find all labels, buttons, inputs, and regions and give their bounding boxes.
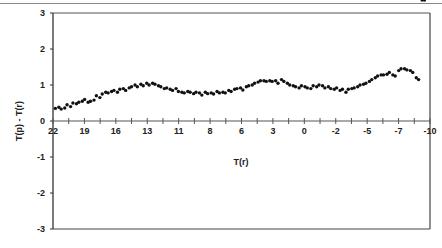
data-point [358, 83, 361, 86]
data-point [112, 89, 115, 92]
y-ticks: 3210-1-2-3 [37, 8, 53, 234]
data-point [95, 94, 98, 97]
x-tick-label: 8 [208, 126, 213, 136]
data-point [174, 87, 177, 90]
data-point [65, 103, 68, 106]
data-point [323, 86, 326, 89]
data-point [206, 92, 209, 95]
data-point [274, 79, 277, 82]
data-point [89, 100, 92, 103]
data-points [54, 0, 427, 111]
data-point [194, 91, 197, 94]
data-point [153, 83, 156, 86]
data-point [116, 91, 119, 94]
data-point [259, 79, 262, 82]
data-point [69, 105, 72, 108]
x-tick-label: -2 [332, 126, 340, 136]
data-point [393, 74, 396, 77]
data-point [171, 89, 174, 92]
data-point [98, 96, 101, 99]
data-point [405, 68, 408, 71]
scatter-chart: 3210-1-2-3 22191613118630-2-5-7-10 T(r) … [0, 0, 442, 248]
data-point [241, 88, 244, 91]
data-point [294, 85, 297, 88]
x-tick-label: 3 [270, 126, 275, 136]
data-point [352, 86, 355, 89]
x-tick-label: 0 [302, 126, 307, 136]
data-point [399, 67, 402, 70]
data-point [335, 86, 338, 89]
x-tick-label: -5 [363, 126, 371, 136]
data-point [159, 85, 162, 88]
data-point [183, 91, 186, 94]
x-tick-label: 16 [111, 126, 121, 136]
y-axis-title: T(p) - T(r) [14, 101, 24, 141]
data-point [344, 91, 347, 94]
x-axis-title: T(r) [234, 157, 249, 167]
data-point [311, 84, 314, 87]
data-point [247, 84, 250, 87]
y-tick-label: 0 [40, 116, 45, 126]
data-point [388, 71, 391, 74]
data-point [382, 73, 385, 76]
data-point [364, 82, 367, 85]
data-point [60, 107, 63, 110]
x-tick-label: 11 [174, 126, 184, 136]
x-tick-label: -7 [395, 126, 403, 136]
data-point [276, 82, 279, 85]
data-point [142, 84, 145, 87]
data-point [235, 87, 238, 90]
data-point [92, 98, 95, 101]
data-point [376, 74, 379, 77]
y-tick-label: -3 [37, 224, 45, 234]
data-point [270, 80, 273, 83]
data-point [63, 106, 66, 109]
x-tick-label: 22 [48, 126, 58, 136]
data-point [300, 84, 303, 87]
data-point [101, 92, 104, 95]
data-point [341, 88, 344, 91]
data-point [423, 0, 426, 2]
data-point [124, 89, 127, 92]
data-point [200, 93, 203, 96]
data-point [417, 78, 420, 81]
data-point [253, 82, 256, 85]
data-point [165, 86, 168, 89]
data-point [306, 86, 309, 89]
data-point [118, 88, 121, 91]
y-tick-label: -2 [37, 188, 45, 198]
data-point [130, 85, 133, 88]
data-point [83, 98, 86, 101]
data-point [54, 107, 57, 110]
x-tick-label: -10 [423, 126, 436, 136]
y-tick-label: -1 [37, 152, 45, 162]
data-point [370, 78, 373, 81]
data-point [347, 88, 350, 91]
data-point [136, 85, 139, 88]
data-point [309, 87, 312, 90]
data-point [147, 83, 150, 86]
x-tick-label: 6 [239, 126, 244, 136]
y-tick-label: 2 [40, 44, 45, 54]
data-point [229, 90, 232, 93]
data-point [288, 83, 291, 86]
data-point [77, 101, 80, 104]
data-point [71, 101, 74, 104]
x-tick-label: 13 [142, 126, 152, 136]
data-point [212, 92, 215, 95]
x-tick-label: 19 [79, 126, 89, 136]
data-point [265, 80, 268, 83]
data-point [317, 83, 320, 86]
data-point [329, 87, 332, 90]
y-tick-label: 3 [40, 8, 45, 18]
data-point [188, 91, 191, 94]
y-tick-label: 1 [40, 80, 45, 90]
data-point [218, 91, 221, 94]
data-point [177, 90, 180, 93]
data-point [411, 71, 414, 74]
data-point [282, 80, 285, 83]
data-point [106, 91, 109, 94]
data-point [224, 91, 227, 94]
